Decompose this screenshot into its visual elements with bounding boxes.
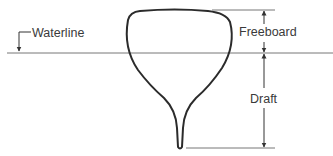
hull-diagram [0,0,333,156]
hull-outline [127,10,232,149]
waterline-leader [19,32,31,51]
waterline-label: Waterline [32,27,84,40]
draft-label: Draft [250,93,277,106]
freeboard-label: Freeboard [239,26,297,39]
